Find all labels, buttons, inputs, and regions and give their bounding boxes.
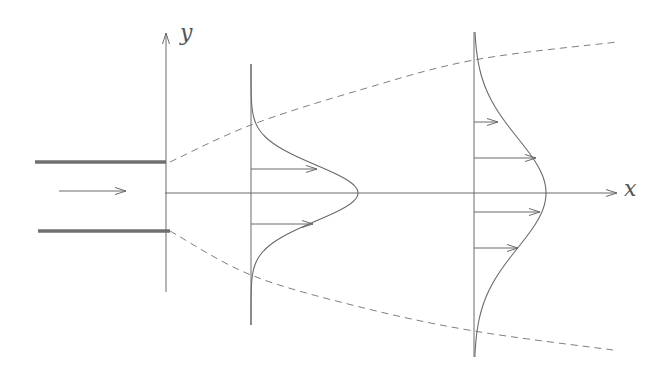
x-axis-label: x (624, 176, 636, 201)
velocity-profile-far (474, 32, 546, 357)
lower-jet-boundary (170, 231, 613, 350)
upper-jet-boundary (170, 42, 617, 162)
gaussian-profile-curve (475, 32, 546, 357)
jet-diagram (0, 0, 670, 371)
gaussian-profile-curve (251, 64, 358, 325)
velocity-profile-near (251, 64, 358, 325)
y-axis-label: y (180, 20, 192, 45)
